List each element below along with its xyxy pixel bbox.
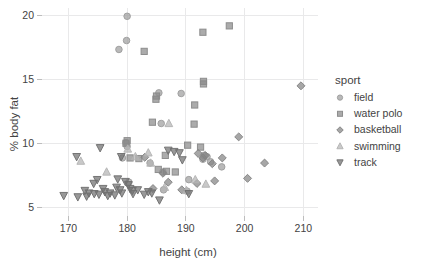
data-markers-layer — [60, 13, 305, 204]
data-point — [218, 164, 225, 171]
y-tick-label: 20 — [22, 9, 34, 21]
data-point — [178, 157, 186, 164]
legend-label: track — [354, 156, 378, 168]
legend-item-basketball[interactable]: basketball — [337, 123, 402, 135]
x-tick-label: 170 — [60, 222, 78, 234]
gridlines-layer — [42, 8, 318, 216]
data-point — [200, 81, 206, 87]
data-point — [192, 102, 198, 108]
data-point — [141, 48, 147, 54]
data-point — [103, 168, 111, 175]
legend-title: sport — [335, 74, 361, 86]
data-point — [185, 142, 191, 148]
data-point — [165, 119, 173, 126]
legend-label: water polo — [353, 107, 403, 119]
series-basketball — [141, 82, 305, 194]
scatter-plot-figure: 1701801902002105101520 sportfieldwater p… — [0, 0, 421, 271]
data-point — [153, 96, 159, 102]
legend: sportfieldwater polobasketballswimmingtr… — [335, 74, 403, 168]
legend-label: basketball — [354, 123, 401, 135]
legend-item-swimming[interactable]: swimming — [337, 140, 401, 152]
data-point — [200, 29, 206, 35]
legend-label: swimming — [354, 140, 401, 152]
data-point — [96, 145, 104, 152]
legend-marker-triangle-up-icon — [337, 143, 343, 149]
legend-item-water-polo[interactable]: water polo — [337, 107, 402, 119]
data-point — [178, 90, 185, 97]
data-point — [116, 46, 123, 53]
legend-item-track[interactable]: track — [337, 156, 378, 168]
legend-item-field[interactable]: field — [337, 91, 373, 103]
data-point — [149, 119, 155, 125]
chart-svg: 1701801902002105101520 sportfieldwater p… — [0, 0, 421, 271]
data-point — [261, 159, 269, 167]
data-point — [186, 176, 193, 183]
legend-marker-square-icon — [337, 111, 342, 116]
data-point — [123, 37, 130, 44]
x-tick-label: 200 — [236, 222, 254, 234]
data-point — [144, 149, 152, 156]
data-point — [211, 177, 219, 185]
tickmarks-layer — [37, 16, 303, 221]
x-axis-title: height (cm) — [159, 246, 217, 258]
data-point — [60, 192, 68, 199]
y-tick-label: 5 — [28, 201, 34, 213]
data-point — [218, 154, 226, 162]
data-point — [74, 194, 82, 201]
data-point — [226, 23, 232, 29]
legend-marker-diamond-icon — [337, 127, 343, 133]
data-point — [172, 169, 178, 175]
legend-label: field — [354, 91, 373, 103]
y-tick-label: 15 — [22, 73, 34, 85]
data-point — [124, 13, 131, 20]
legend-marker-triangle-down-icon — [337, 160, 343, 166]
x-tick-label: 180 — [118, 222, 136, 234]
y-axis-title: % body fat — [8, 96, 20, 151]
x-tick-label: 210 — [295, 222, 313, 234]
x-tick-label: 190 — [177, 222, 195, 234]
data-point — [202, 180, 210, 187]
data-point — [158, 120, 165, 127]
legend-marker-circle-icon — [337, 95, 342, 100]
data-point — [191, 175, 199, 182]
data-point — [90, 180, 98, 187]
series-field — [116, 13, 225, 194]
data-point — [191, 121, 197, 127]
data-point — [176, 150, 184, 157]
data-point — [156, 197, 164, 204]
data-point — [235, 133, 243, 141]
y-tick-label: 10 — [22, 137, 34, 149]
data-point — [114, 176, 122, 183]
